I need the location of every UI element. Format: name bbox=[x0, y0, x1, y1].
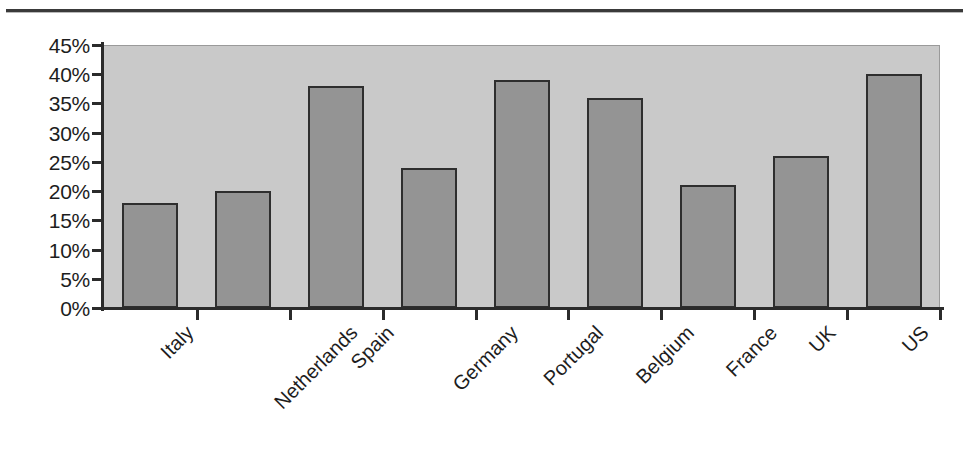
y-axis-line bbox=[101, 42, 104, 311]
x-axis: ItalyNetherlandsSpainGermanyPortugalBelg… bbox=[0, 308, 969, 452]
y-axis-tick-label: 25% bbox=[18, 152, 90, 173]
y-axis-tick-label: 10% bbox=[18, 240, 90, 261]
y-axis-tick-mark bbox=[92, 161, 103, 164]
y-axis-tick-mark bbox=[92, 249, 103, 252]
x-axis-category-label: Germany bbox=[449, 322, 521, 394]
bar bbox=[680, 185, 736, 308]
y-axis-tick-label: 40% bbox=[18, 64, 90, 85]
x-axis-category-label: Belgium bbox=[632, 322, 697, 387]
y-axis-tick-mark bbox=[92, 190, 103, 193]
x-axis-category-label: UK bbox=[805, 322, 839, 356]
bar-chart-figure: 45%40%35%30%25%20%15%10%5%0% ItalyNether… bbox=[0, 0, 969, 452]
x-axis-category-label: US bbox=[898, 322, 932, 356]
x-axis-category-label: Netherlands bbox=[271, 322, 361, 412]
y-axis-tick-mark bbox=[92, 219, 103, 222]
x-axis-category-label: Italy bbox=[157, 322, 197, 362]
y-axis-tick-mark bbox=[92, 44, 103, 47]
y-axis-tick-label: 45% bbox=[18, 35, 90, 56]
y-axis-tick-mark bbox=[92, 102, 103, 105]
y-axis-tick-label: 5% bbox=[18, 269, 90, 290]
y-axis-tick-mark bbox=[92, 73, 103, 76]
bar bbox=[401, 168, 457, 308]
y-axis-tick-mark bbox=[92, 278, 103, 281]
x-axis-category-label: France bbox=[722, 322, 780, 380]
bar bbox=[215, 191, 271, 308]
bar bbox=[866, 74, 922, 308]
y-axis-tick-label: 35% bbox=[18, 93, 90, 114]
bar bbox=[494, 80, 550, 308]
bar bbox=[122, 203, 178, 308]
bar bbox=[308, 86, 364, 308]
bar bbox=[587, 98, 643, 308]
plot-area bbox=[104, 45, 940, 308]
y-axis-tick-label: 20% bbox=[18, 181, 90, 202]
y-axis-tick-label: 15% bbox=[18, 210, 90, 231]
x-axis-category-label: Portugal bbox=[540, 322, 607, 389]
y-axis-tick-mark bbox=[92, 132, 103, 135]
y-axis-tick-label: 30% bbox=[18, 123, 90, 144]
bar bbox=[773, 156, 829, 308]
y-axis: 45%40%35%30%25%20%15%10%5%0% bbox=[18, 33, 90, 315]
